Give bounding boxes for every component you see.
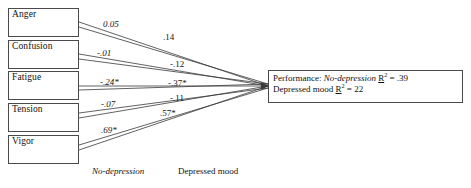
coefficient-tension-depressed-mood: -.11 [170,93,184,103]
coefficient-fatigue-no-depression: -.24* [100,77,119,87]
predictor-box-fatigue[interactable]: Fatigue [8,71,79,100]
coefficient-anger-depressed-mood: .14 [163,32,174,42]
predictor-box-confusion[interactable]: Confusion [8,40,79,69]
coefficient-confusion-no-depression: -.01 [97,48,111,58]
predictor-label-tension: Tension [12,104,43,115]
outcome-line-no-depression: Performance: No-depression R2 = .39 [273,73,458,84]
predictor-label-confusion: Confusion [12,41,53,52]
outcome-r-value-1: = .39 [390,73,409,83]
coefficient-vigor-depressed-mood: .57* [160,108,176,118]
outcome-r-value-2: = 22 [347,84,363,94]
outcome-prefix: Performance: [273,73,321,83]
outcome-r-exponent-2: 2 [342,82,345,89]
outcome-line-depressed-mood: Depressed mood R2 = 22 [273,84,458,95]
coefficient-anger-no-depression: 0.05 [103,19,119,29]
predictor-label-vigor: Vigor [12,136,34,147]
outcome-group-depressed-mood: Depressed mood [273,84,333,94]
predictor-box-anger[interactable]: Anger [8,8,79,37]
coefficient-fatigue-depressed-mood: -.37* [168,78,187,88]
outcome-r-exponent-1: 2 [384,71,387,78]
coefficient-tension-no-depression: -.07 [101,99,115,109]
outcome-box-performance[interactable]: Performance: No-depression R2 = .39 Depr… [268,70,463,103]
predictor-box-vigor[interactable]: Vigor [8,135,79,164]
predictor-label-fatigue: Fatigue [12,72,41,83]
legend-depressed-mood: Depressed mood [178,166,238,176]
legend-no-depression: No-depression [92,166,144,176]
predictor-label-anger: Anger [12,9,36,20]
path-diagram-canvas: Anger Confusion Fatigue Tension Vigor Pe… [0,0,471,188]
coefficient-vigor-no-depression: .69* [101,125,117,135]
predictor-box-tension[interactable]: Tension [8,103,79,132]
coefficient-confusion-depressed-mood: -.12 [170,59,184,69]
outcome-group-no-depression: No-depression [324,73,376,83]
